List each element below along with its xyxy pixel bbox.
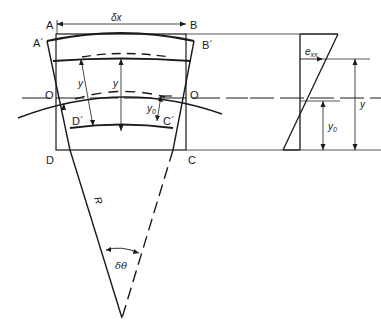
- label-y-left: y: [77, 78, 84, 89]
- label-a-prime: A´: [33, 37, 44, 49]
- radius-line-dashed: [122, 150, 173, 318]
- dashed-fibre-arc: [82, 54, 170, 58]
- strain-distribution-diagram: [283, 34, 358, 150]
- label-radius: R: [92, 195, 105, 205]
- label-y0: y0: [146, 103, 156, 115]
- label-y-center: y: [112, 78, 119, 89]
- label-d: D: [46, 154, 54, 166]
- label-strain: exx: [305, 46, 318, 58]
- label-a: A: [46, 19, 54, 31]
- arrowhead-icon: [180, 22, 186, 27]
- arrowhead-icon: [57, 22, 63, 27]
- label-o-right: O: [190, 89, 199, 101]
- extension-lines: [186, 34, 381, 150]
- label-y-right: y: [359, 99, 366, 110]
- labels: A B A´ B´ O O D´ C´ D C δx y y y0 R δθ e…: [33, 12, 366, 271]
- label-c: C: [188, 154, 196, 166]
- label-d-prime: D´: [72, 115, 84, 127]
- beam-bending-diagram: A B A´ B´ O O D´ C´ D C δx y y y0 R δθ e…: [0, 0, 381, 333]
- label-y0-right: y0: [327, 121, 337, 133]
- radius-line-solid: [70, 150, 122, 318]
- label-c-prime: C´: [163, 115, 175, 127]
- label-o-left: O: [45, 89, 54, 101]
- label-b-prime: B´: [202, 39, 213, 51]
- label-delta-x: δx: [111, 12, 123, 23]
- label-delta-theta: δθ: [115, 260, 127, 271]
- fibre-y-line: [53, 59, 191, 62]
- label-b: B: [190, 19, 197, 31]
- left-element-diagram: [18, 20, 381, 318]
